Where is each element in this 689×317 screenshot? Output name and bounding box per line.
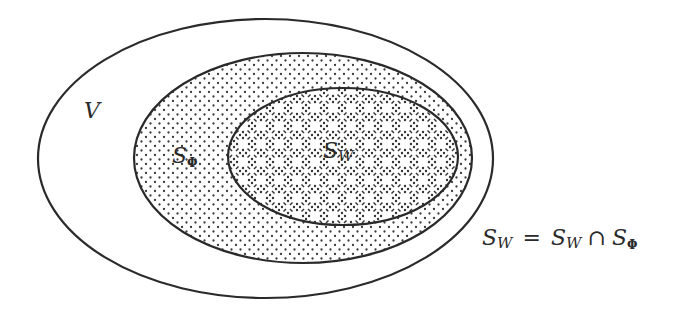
equation-intersect: ∩	[587, 225, 605, 250]
set-s-phi-label-sub: Φ	[187, 156, 197, 170]
set-v-label: V	[84, 98, 102, 123]
equation-rhs2-sub: Φ	[627, 238, 637, 252]
set-s-w-label-sub: W	[338, 147, 355, 165]
equation-rhs2-main: S	[612, 225, 627, 250]
equation-rhs1-main: S	[551, 225, 566, 250]
set-s-w-label-main: S	[323, 138, 338, 163]
equation-rhs1-sub: W	[566, 234, 583, 252]
nested-set-diagram: V SΦ SW SW=SW∩SΦ	[0, 0, 689, 317]
equation-lhs-sub: W	[497, 234, 514, 252]
set-s-phi-label-main: S	[172, 143, 187, 168]
equation-equals: =	[523, 225, 541, 250]
equation: SW=SW∩SΦ	[482, 225, 637, 252]
equation-lhs-main: S	[482, 225, 497, 250]
